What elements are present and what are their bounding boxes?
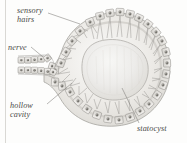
leader-sensory-hairs <box>48 13 80 24</box>
label-nerve: nerve <box>8 43 27 52</box>
statocyst-figure: sensory hairs nerve hollow cavity statoc… <box>0 0 187 143</box>
label-statocyst: statocyst <box>137 124 167 133</box>
label-hollow-cavity: hollow cavity <box>10 101 33 120</box>
label-sensory-hairs-line1: sensory <box>17 6 43 15</box>
label-sensory-hairs: sensory hairs <box>17 6 43 25</box>
statolith <box>82 40 148 101</box>
label-hollow-cavity-line1: hollow <box>10 101 33 110</box>
statolith-outline <box>82 40 148 101</box>
label-sensory-hairs-line2: hairs <box>17 15 43 24</box>
label-hollow-cavity-line2: cavity <box>10 110 33 119</box>
